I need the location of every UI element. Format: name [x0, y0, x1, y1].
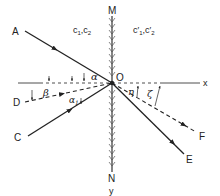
- label-x-axis: x: [203, 78, 208, 88]
- interface-mn: [109, 16, 115, 172]
- label-m: M: [108, 5, 116, 16]
- label-e: E: [186, 154, 193, 165]
- label-n: N: [108, 173, 115, 184]
- label-y-axis: y: [109, 186, 114, 196]
- label-d: D: [13, 97, 20, 108]
- origin-point: [110, 81, 114, 85]
- label-origin: O: [116, 72, 124, 83]
- angle-eta: η: [128, 86, 134, 97]
- angle-zeta: ζ: [147, 88, 153, 99]
- label-medium-right: c′1,c′2: [133, 25, 155, 36]
- angle-beta: β: [42, 87, 49, 98]
- label-a: A: [12, 26, 19, 37]
- ray-c: [28, 83, 112, 136]
- label-f: F: [199, 131, 205, 142]
- wave-refraction-diagram: M N y O x A C D E F c1,c2 c′1,c′2 α β α1…: [0, 0, 220, 196]
- ray-a: [25, 31, 112, 83]
- label-medium-left: c1,c2: [73, 25, 92, 36]
- angle-alpha: α: [91, 71, 98, 82]
- label-c: C: [14, 132, 21, 143]
- angle-alpha1: α1: [69, 95, 79, 106]
